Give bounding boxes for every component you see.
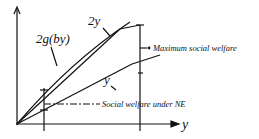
pointer-y [111, 86, 116, 90]
max-dot [148, 47, 150, 49]
horizontal-axis-arrow-icon [171, 121, 179, 127]
label-2y: 2y [88, 13, 101, 28]
line-y-upper [132, 55, 160, 64]
line-y [17, 64, 132, 124]
annotation-ne-welfare: Social welfare under NE [102, 99, 186, 109]
x-axis-label: y [180, 117, 189, 132]
welfare-diagram: 2g(by) 2y y y Maximum social welfare Soc… [0, 0, 259, 139]
label-y-line: y [102, 72, 110, 87]
label-2g-by: 2g(by) [36, 31, 70, 46]
pointer-2y [103, 28, 110, 36]
pointer-2g-by [51, 47, 57, 66]
annotation-max-welfare: Maximum social welfare [152, 43, 237, 53]
